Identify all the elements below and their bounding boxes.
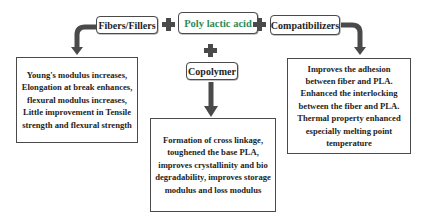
down-arrow-icon	[204, 82, 218, 118]
compatibilizers-label: Compatibilizers	[271, 20, 339, 31]
curved-arrow-right-icon	[340, 20, 370, 58]
poly-lactic-acid-label: Poly lactic acid	[184, 18, 252, 29]
compatibilizers-node: Compatibilizers	[270, 15, 340, 35]
copolymer-effect-text: Formation of cross linkage, toughened th…	[155, 134, 271, 196]
copolymer-node: Copolymer	[186, 62, 238, 80]
plus-icon	[253, 18, 266, 31]
compatibilizers-effect-box: Improves the adhesion between fiber and …	[287, 58, 411, 154]
fibers-fillers-effect-box: Young's modulus increases, Elongation at…	[16, 57, 138, 143]
compatibilizers-effect-text: Improves the adhesion between fiber and …	[292, 63, 406, 150]
fibers-fillers-effect-text: Young's modulus increases, Elongation at…	[21, 69, 133, 131]
copolymer-effect-box: Formation of cross linkage, toughened th…	[150, 118, 276, 212]
fibers-fillers-label: Fibers/Fillers	[98, 20, 155, 31]
curved-arrow-left-icon	[68, 22, 98, 58]
poly-lactic-acid-node: Poly lactic acid	[178, 12, 258, 34]
plus-icon	[162, 18, 175, 31]
copolymer-label: Copolymer	[188, 66, 236, 77]
plus-icon	[204, 44, 217, 57]
fibers-fillers-node: Fibers/Fillers	[96, 16, 158, 34]
